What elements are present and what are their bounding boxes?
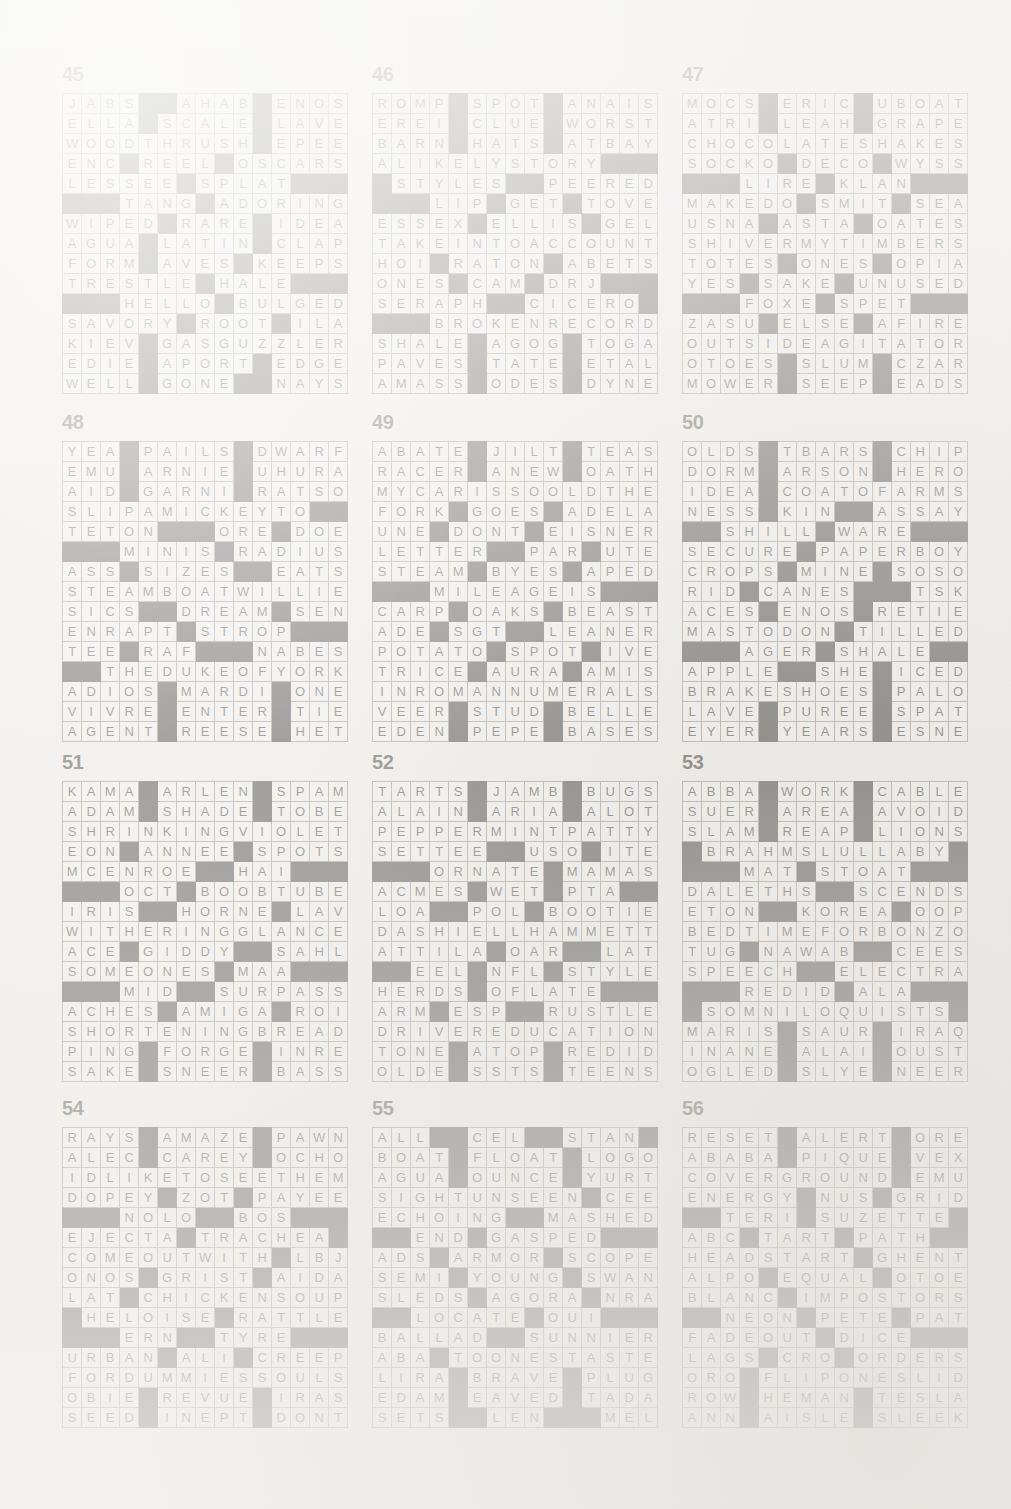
- grid-cell-letter: T: [291, 482, 310, 502]
- grid-row: HERDSOFLATE: [373, 982, 658, 1002]
- grid-cell-letter: I: [82, 702, 101, 722]
- grid-cell-block: [740, 942, 759, 962]
- grid-cell-letter: N: [101, 1042, 120, 1062]
- grid-cell-letter: Y: [430, 174, 449, 194]
- grid-row: UNEDONTEISNER: [373, 522, 658, 542]
- grid-cell-letter: R: [911, 1022, 930, 1042]
- grid-cell-letter: W: [234, 582, 253, 602]
- grid-row: SEMIYOUNGSWAN: [373, 1268, 658, 1288]
- grid-cell-letter: N: [82, 622, 101, 642]
- grid-cell-letter: A: [873, 802, 892, 822]
- grid-cell-letter: S: [120, 902, 139, 922]
- grid-cell-letter: A: [468, 682, 487, 702]
- grid-row: LOAPOLBOOTIE: [373, 902, 658, 922]
- grid-cell-letter: E: [778, 642, 797, 662]
- grid-cell-letter: T: [740, 622, 759, 642]
- grid-cell-letter: Z: [177, 1188, 196, 1208]
- grid-cell-letter: O: [525, 334, 544, 354]
- grid-cell-letter: E: [411, 1228, 430, 1248]
- grid-cell-letter: R: [253, 702, 272, 722]
- grid-cell-letter: A: [683, 602, 702, 622]
- grid-cell-letter: O: [778, 194, 797, 214]
- grid-cell-letter: E: [949, 722, 968, 742]
- grid-cell-letter: A: [911, 682, 930, 702]
- grid-cell-letter: A: [721, 822, 740, 842]
- grid-cell-block: [158, 1188, 177, 1208]
- grid-cell-letter: L: [291, 234, 310, 254]
- grid-cell-letter: S: [373, 842, 392, 862]
- grid-cell-block: [949, 1002, 968, 1022]
- grid-cell-letter: A: [506, 1228, 525, 1248]
- grid-cell-letter: S: [525, 502, 544, 522]
- grid-cell-letter: W: [63, 374, 82, 394]
- grid-cell-block: [601, 982, 620, 1002]
- grid-cell-letter: E: [639, 482, 658, 502]
- grid-cell-letter: C: [468, 114, 487, 134]
- grid-row: ALIKELYSTORY: [373, 154, 658, 174]
- grid-cell-letter: L: [196, 782, 215, 802]
- grid-cell-block: [721, 294, 740, 314]
- grid-cell-letter: A: [949, 194, 968, 214]
- grid-cell-block: [158, 1002, 177, 1022]
- grid-cell-letter: E: [740, 254, 759, 274]
- grid-cell-letter: P: [854, 542, 873, 562]
- grid-cell-letter: M: [411, 882, 430, 902]
- grid-cell-letter: E: [683, 1188, 702, 1208]
- grid-cell-letter: D: [582, 1228, 601, 1248]
- grid-cell-letter: P: [291, 134, 310, 154]
- grid-cell-letter: S: [563, 1248, 582, 1268]
- grid-cell-block: [759, 702, 778, 722]
- grid-row: ECHOINGMASHED: [373, 1208, 658, 1228]
- grid-cell-letter: M: [930, 1168, 949, 1188]
- grid-cell-letter: M: [449, 562, 468, 582]
- grid-cell-block: [544, 254, 563, 274]
- grid-cell-letter: B: [272, 1062, 291, 1082]
- grid-cell-letter: I: [620, 662, 639, 682]
- grid-cell-letter: K: [949, 1408, 968, 1428]
- grid-cell-letter: Z: [683, 314, 702, 334]
- grid-cell-letter: Y: [392, 482, 411, 502]
- grid-cell-letter: O: [139, 1308, 158, 1328]
- grid-cell-letter: R: [854, 922, 873, 942]
- grid-cell-letter: S: [639, 442, 658, 462]
- grid-cell-letter: S: [683, 154, 702, 174]
- grid-cell-letter: N: [291, 922, 310, 942]
- grid-cell-letter: S: [329, 1368, 348, 1388]
- grid-cell-letter: U: [854, 1002, 873, 1022]
- grid-row: RIDCANESTSK: [683, 582, 968, 602]
- grid-cell-letter: U: [101, 234, 120, 254]
- grid-cell-letter: L: [620, 962, 639, 982]
- grid-cell-letter: U: [892, 274, 911, 294]
- grid-cell-block: [740, 274, 759, 294]
- grid-cell-letter: T: [310, 562, 329, 582]
- grid-cell-block: [702, 862, 721, 882]
- grid-row: SETSLENMEL: [373, 1408, 658, 1428]
- grid-cell-letter: L: [892, 1408, 911, 1428]
- grid-row: AGERSHALE: [683, 642, 968, 662]
- grid-cell-letter: U: [835, 842, 854, 862]
- grid-cell-letter: H: [177, 802, 196, 822]
- grid-cell-letter: H: [778, 882, 797, 902]
- grid-cell-letter: H: [373, 982, 392, 1002]
- grid-cell-letter: N: [468, 862, 487, 882]
- grid-cell-letter: S: [310, 1062, 329, 1082]
- grid-cell-block: [702, 1308, 721, 1328]
- grid-cell-letter: E: [759, 662, 778, 682]
- grid-cell-letter: C: [582, 1248, 601, 1268]
- grid-cell-letter: T: [487, 1042, 506, 1062]
- grid-cell-letter: H: [740, 522, 759, 542]
- grid-cell-letter: O: [854, 1348, 873, 1368]
- grid-cell-letter: N: [873, 274, 892, 294]
- grid-row: ELLASCALELAVE: [63, 114, 348, 134]
- grid-cell-letter: G: [620, 334, 639, 354]
- grid-cell-block: [816, 1328, 835, 1348]
- grid-cell-block: [702, 294, 721, 314]
- grid-cell-letter: L: [721, 882, 740, 902]
- grid-cell-letter: D: [101, 482, 120, 502]
- grid-cell-letter: P: [544, 174, 563, 194]
- grid-cell-letter: N: [797, 602, 816, 622]
- grid-cell-letter: O: [601, 194, 620, 214]
- grid-cell-letter: A: [177, 1348, 196, 1368]
- grid-cell-block: [215, 1308, 234, 1328]
- grid-cell-block: [683, 294, 702, 314]
